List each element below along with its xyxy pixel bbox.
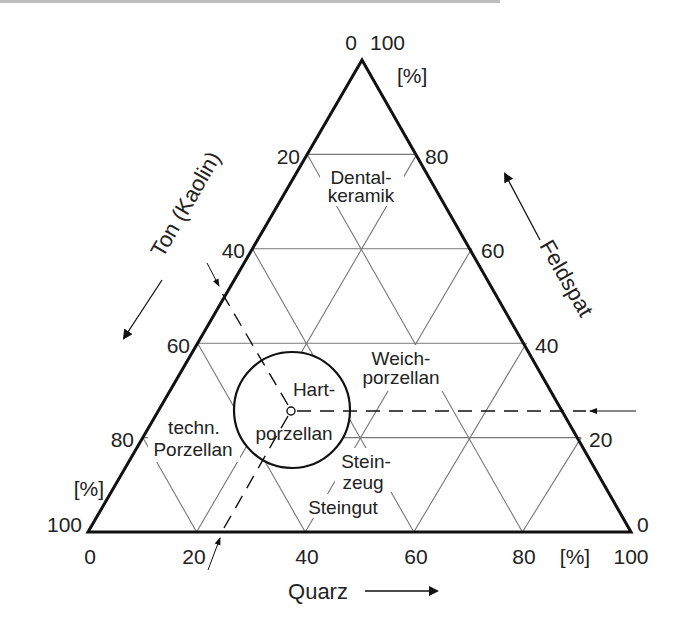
ton-axis-title: Ton (Kaolin): [145, 147, 225, 261]
feldspat-axis-title: Feldspat: [535, 235, 599, 321]
svg-text:40: 40: [535, 334, 558, 357]
composition-point: [287, 407, 295, 415]
svg-text:100: 100: [47, 513, 82, 536]
svg-text:0: 0: [637, 513, 649, 536]
region-hartporzellan-line1: Hart-: [293, 379, 335, 400]
quarz-axis-title: Quarz: [288, 579, 348, 604]
svg-text:80: 80: [111, 428, 134, 451]
svg-text:60: 60: [167, 334, 190, 357]
svg-text:60: 60: [404, 545, 427, 568]
svg-text:100: 100: [613, 545, 648, 568]
quarz-ticks: 0 20 40 60 80 [%] 100: [84, 545, 648, 568]
svg-text:[%]: [%]: [74, 477, 104, 500]
svg-text:20: 20: [182, 545, 205, 568]
region-techn-porzellan-line1: techn.: [168, 417, 220, 438]
ternary-diagram: 0 20 40 60 80 [%] 100 0 20 40 60 80 [%] …: [0, 0, 681, 629]
svg-text:40: 40: [295, 545, 318, 568]
region-dentalkeramik-line2: keramik: [328, 185, 395, 206]
region-weichporzellan-line1: Weich-: [372, 348, 431, 369]
region-steinzeug-line1: Stein-: [341, 451, 391, 472]
feldspat-ticks: 100 [%] 80 60 40 20 0: [370, 31, 649, 536]
feldspat-arrow-icon: [505, 174, 540, 240]
svg-text:20: 20: [589, 428, 612, 451]
svg-text:100: 100: [370, 31, 405, 54]
svg-text:40: 40: [222, 239, 245, 262]
ton-arrow-icon: [124, 280, 162, 338]
region-weichporzellan-line2: porzellan: [362, 367, 439, 388]
region-steingut: Steingut: [308, 497, 378, 518]
svg-text:[%]: [%]: [397, 64, 427, 87]
svg-text:0: 0: [84, 545, 96, 568]
region-steinzeug-line2: zeug: [342, 472, 383, 493]
region-hartporzellan-line2: porzellan: [255, 423, 332, 444]
svg-text:20: 20: [277, 145, 300, 168]
region-techn-porzellan-line2: Porzellan: [153, 439, 232, 460]
svg-text:80: 80: [512, 545, 535, 568]
svg-text:[%]: [%]: [560, 545, 590, 568]
svg-text:60: 60: [481, 239, 504, 262]
svg-text:0: 0: [345, 31, 357, 54]
svg-text:80: 80: [425, 145, 448, 168]
